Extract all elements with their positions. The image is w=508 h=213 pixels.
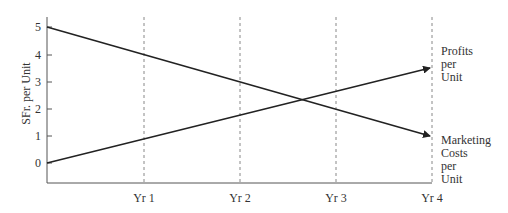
label-line: Unit	[441, 71, 473, 84]
y-ticks	[47, 27, 52, 163]
y-tick-label: 2	[29, 102, 41, 117]
y-tick-label: 5	[29, 20, 41, 35]
chart-canvas	[0, 0, 508, 213]
year-gridlines	[144, 17, 432, 183]
marketing-costs-per-unit-label: Marketing Costs per Unit	[441, 134, 491, 186]
label-line: Unit	[441, 173, 491, 186]
y-tick-label: 4	[29, 48, 41, 63]
x-tick-label: Yr 3	[316, 191, 356, 206]
x-tick-label: Yr 2	[220, 191, 260, 206]
y-axis-label: SFr. per Unit	[19, 54, 34, 134]
profits-per-unit-label: Profits per Unit	[441, 45, 473, 84]
x-tick-label: Yr 4	[412, 191, 452, 206]
y-tick-label: 3	[29, 75, 41, 90]
y-tick-label: 0	[29, 156, 41, 171]
y-tick-label: 1	[29, 129, 41, 144]
x-tick-label: Yr 1	[124, 191, 164, 206]
